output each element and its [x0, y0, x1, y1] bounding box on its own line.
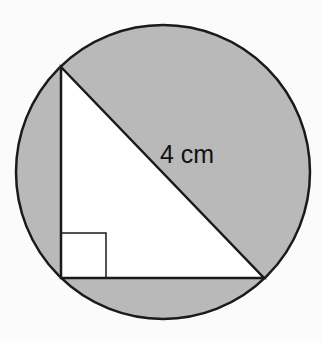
- hypotenuse-length-label: 4 cm: [160, 140, 214, 168]
- diagram-canvas: 4 cm: [0, 0, 322, 341]
